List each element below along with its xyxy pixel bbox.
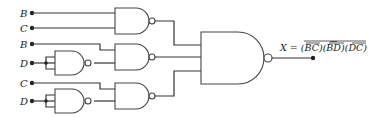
nand-gate-bc: [115, 8, 155, 34]
term-bc: BC: [303, 42, 319, 53]
input-label-b2: B: [19, 39, 27, 50]
nand-gate-bd: [115, 44, 155, 70]
nand-gate-inverter-1: [55, 51, 91, 75]
term-bd: BD: [325, 42, 341, 53]
nand-gate-dc: [115, 83, 155, 109]
input-label-d2: D: [19, 96, 28, 107]
term-dc: DC: [347, 42, 364, 53]
input-label-c2: C: [20, 78, 28, 89]
input-label-c1: C: [20, 23, 28, 34]
output-terminal: [311, 56, 315, 60]
logic-circuit-diagram: B C B D C D: [0, 0, 385, 117]
intermediate-wires: [155, 21, 201, 96]
output-equation: X = (BC)(BD)(DC): [279, 41, 367, 53]
input-label-b1: B: [19, 8, 27, 19]
input-terminals: [30, 11, 34, 103]
nand-gate-output: [201, 32, 272, 84]
input-label-d1: D: [19, 58, 28, 69]
nand-gate-inverter-2: [55, 89, 91, 113]
equation-text: X = (BC)(BD)(DC): [279, 42, 367, 53]
